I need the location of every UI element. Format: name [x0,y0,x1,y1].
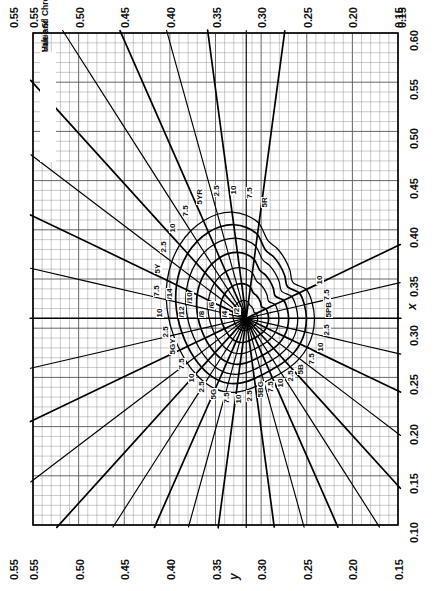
hue-label-10B: 10 [317,342,325,352]
chroma-label-12: /12 [178,306,186,318]
top-axis-tick-7: 0.20 [347,7,359,28]
hue-label-10YR: 10 [169,223,177,233]
hue-label-10Y: 10 [156,308,164,318]
hue-label-7.5PB: 7.5 [323,288,331,300]
hue-label-2.5Y: 2.5 [160,240,168,252]
hue-label-2.5B: 2.5 [287,370,295,382]
top-axis-tick-6: 0.25 [302,7,314,28]
x-axis-tick-10: 0.10 [408,522,420,543]
x-axis-name: x [405,303,419,310]
munsell-chromaticity-chart: Hue and Chroma Value 5/ 0.550.500.450.40… [0,0,441,591]
y-axis-tick-6: 0.25 [302,559,314,580]
chroma-label-4: /4 [221,311,229,319]
x-axis-tick-2: 0.50 [408,129,420,150]
chroma-label-14: /14 [166,288,174,300]
x-axis-tick-1: 0.55 [408,80,420,101]
hue-label-7.5BG: 7.5 [267,381,275,393]
y-axis-tick-2: 0.45 [119,559,131,580]
x-axis-tick-8: 0.20 [408,424,420,445]
hue-label-10PB: 10 [316,275,324,285]
top-axis-tick-3: 0.40 [165,7,177,28]
hue-label-7.5GY: 7.5 [178,358,186,370]
hue-label-2.5PB: 2.5 [323,324,331,336]
hue-label-5G: 5G [210,389,218,401]
x-axis-tick-5: 0.35 [408,276,420,297]
hue-label-7.5G: 7.5 [223,392,231,404]
hue-label-5PB: 5PB [325,302,333,319]
y-axis-tick-3: 0.40 [165,559,177,580]
y-axis-tick-7: 0.20 [347,559,359,580]
left-axis-tick-0: 0.55 [8,7,20,28]
hue-label-10R: 10 [230,185,238,195]
chroma-label-6: /6 [208,302,216,310]
y-axis-tick-0: 0.55 [28,559,40,580]
hue-label-7.5YR: 7.5 [182,205,190,217]
chroma-label-8: /8 [198,311,206,319]
x-axis-tick-7: 0.25 [408,375,420,396]
hue-label-2.5GY: 2.5 [162,326,170,338]
hue-label-2.5G: 2.5 [198,381,206,393]
hue-label-7.5B: 7.5 [308,353,316,365]
hue-label-5YR: 5YR [196,188,204,205]
y-axis-name: y [227,573,241,580]
hue-label-5B: 5B [297,363,305,374]
x-axis-tick-4: 0.40 [408,227,420,248]
x-axis-tick-3: 0.45 [408,178,420,199]
chart-title-line2: Value 5/ [40,20,50,52]
hue-label-7.5R: 7.5 [246,186,254,198]
x-axis-tick-9: 0.15 [408,473,420,494]
chart-title: Hue and Chroma Value 5/ [40,52,56,162]
hue-label-5R: 5R [261,197,269,208]
hue-label-5BG: 5BG [257,380,265,397]
left-axis-tick-1: 0.55 [8,559,20,580]
y-axis-tick-8: 0.15 [393,559,405,580]
chroma-label-10: /10 [186,292,194,304]
y-axis-tick-1: 0.50 [74,559,86,580]
top-axis-tick-2: 0.45 [119,7,131,28]
x-axis-tick-6: 0.30 [408,326,420,347]
hue-label-10BG: 10 [277,378,285,388]
top-axis-tick-1: 0.50 [74,7,86,28]
hue-label-2.5BG: 2.5 [246,390,254,402]
top-axis-tick-5: 0.30 [256,7,268,28]
y-axis-tick-4: 0.35 [211,559,223,580]
x-axis-tick-0: 0.60 [408,30,420,51]
y-axis-tick-5: 0.30 [256,559,268,580]
hue-label-7.5Y: 7.5 [153,285,161,297]
top-axis-tick-0: 0.55 [28,7,40,28]
top-axis-tick-4: 0.35 [211,7,223,28]
hue-label-2.5YR: 2.5 [213,185,221,197]
chroma-label-2: /2 [233,307,241,315]
hue-label-10G: 10 [235,394,243,404]
top-right-corner-tick: 0.15 [396,7,408,28]
plot-area [0,0,441,591]
hue-label-10GY: 10 [188,373,196,383]
hue-label-5Y: 5Y [154,264,162,275]
hue-label-5GY: 5GY [169,338,177,355]
